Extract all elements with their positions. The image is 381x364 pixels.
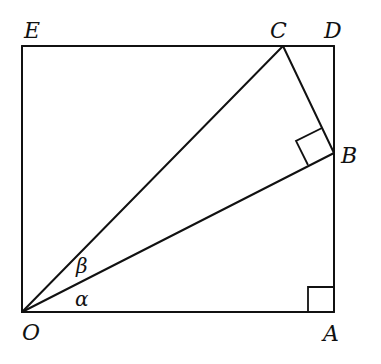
segment-OB <box>22 153 334 312</box>
point-label-B: B <box>340 143 357 168</box>
point-label-O: O <box>22 320 40 345</box>
angle-label-alpha: α <box>75 287 89 311</box>
angle-label-beta: β <box>75 254 88 278</box>
geometry-diagram: E C D B O A β α <box>0 0 381 364</box>
point-label-E: E <box>23 18 40 43</box>
right-angle-marker-B <box>296 128 322 165</box>
right-angle-marker-A <box>308 287 334 312</box>
point-label-A: A <box>321 321 339 346</box>
segment-OC <box>22 46 283 312</box>
point-label-D: D <box>323 18 342 43</box>
point-label-C: C <box>270 18 287 43</box>
segment-BC <box>283 46 334 153</box>
